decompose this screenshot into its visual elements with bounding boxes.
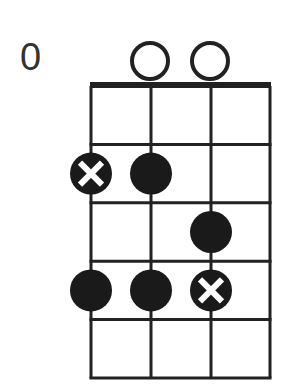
finger-dot: [190, 211, 232, 253]
open-string-icon: [192, 43, 228, 79]
open-string-icon: [132, 43, 168, 79]
nut: [90, 82, 271, 88]
finger-dot: [130, 269, 172, 311]
finger-dot: [130, 153, 172, 195]
finger-dot: [70, 269, 112, 311]
chord-diagram: [0, 0, 293, 389]
